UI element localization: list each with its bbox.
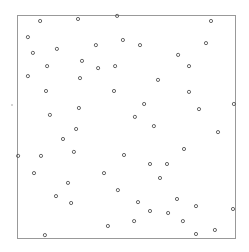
- data-point: [175, 197, 178, 200]
- data-point: [231, 207, 234, 210]
- data-point: [133, 220, 136, 223]
- data-point: [158, 176, 161, 179]
- data-point: [194, 205, 197, 208]
- data-point: [148, 209, 151, 212]
- data-point: [187, 90, 190, 93]
- annotation-marks: [11, 104, 12, 105]
- data-point: [44, 89, 47, 92]
- data-point: [112, 89, 115, 92]
- data-point: [136, 201, 139, 204]
- data-point: [54, 195, 57, 198]
- data-point: [17, 154, 20, 157]
- data-point: [148, 162, 151, 165]
- data-point: [216, 131, 219, 134]
- data-point: [102, 172, 105, 175]
- data-point: [182, 147, 185, 150]
- data-point: [165, 162, 168, 165]
- data-point: [72, 150, 75, 153]
- data-point: [39, 19, 42, 22]
- plot-frame: [18, 16, 236, 239]
- data-point: [32, 172, 35, 175]
- data-point: [181, 220, 184, 223]
- data-point: [76, 17, 79, 20]
- data-point: [204, 42, 207, 45]
- data-point: [39, 154, 42, 157]
- data-points: [17, 14, 236, 236]
- data-point: [133, 115, 136, 118]
- data-point: [209, 19, 212, 22]
- data-point: [197, 108, 200, 111]
- data-point: [70, 201, 73, 204]
- data-point: [61, 137, 64, 140]
- data-point: [66, 181, 69, 184]
- data-point: [167, 211, 170, 214]
- stray-mark: [11, 104, 12, 105]
- data-point: [213, 228, 216, 231]
- data-point: [80, 59, 83, 62]
- data-point: [77, 106, 80, 109]
- data-point: [78, 77, 81, 80]
- data-point: [26, 75, 29, 78]
- data-point: [143, 102, 146, 105]
- data-point: [55, 47, 58, 50]
- data-point: [106, 224, 109, 227]
- data-point: [156, 78, 159, 81]
- data-point: [94, 44, 97, 47]
- data-point: [43, 234, 46, 237]
- data-point: [114, 65, 117, 68]
- data-point: [177, 53, 180, 56]
- data-point: [26, 36, 29, 39]
- data-point: [121, 38, 124, 41]
- data-point: [97, 67, 100, 70]
- data-point: [116, 189, 119, 192]
- data-point: [187, 65, 190, 68]
- data-point: [46, 65, 49, 68]
- data-point: [152, 125, 155, 128]
- data-point: [138, 44, 141, 47]
- data-point: [48, 113, 51, 116]
- data-point: [122, 153, 125, 156]
- data-point: [194, 232, 197, 235]
- data-point: [75, 127, 78, 130]
- scatter-plot: [0, 0, 249, 252]
- data-point: [31, 51, 34, 54]
